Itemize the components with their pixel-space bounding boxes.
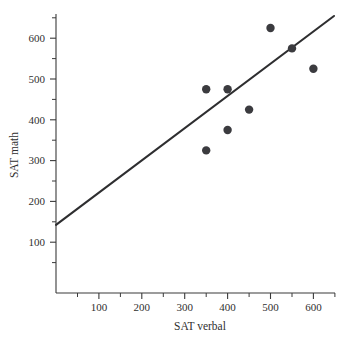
y-tick-label-200: 200 [29,195,46,207]
x-tick-label-500: 500 [262,301,279,313]
y-tick-label-100: 100 [29,236,46,248]
scatter-plot-figure: 600 500 400 300 200 100 1 [0,0,342,343]
data-point [202,146,210,154]
data-points-group [202,24,318,155]
y-tick-label-400: 400 [29,114,46,126]
data-point [309,65,317,73]
y-axis-minor-ticks [52,18,56,263]
y-axis-tick-labels: 600 500 400 300 200 100 [29,32,46,248]
data-point [202,85,210,93]
y-axis-title: SAT math [8,132,20,178]
y-tick-label-500: 500 [29,73,46,85]
x-tick-label-300: 300 [176,301,193,313]
chart-canvas: 600 500 400 300 200 100 1 [0,0,342,343]
data-point [245,105,253,113]
x-tick-label-600: 600 [305,301,322,313]
data-point [288,44,296,52]
x-tick-label-100: 100 [91,301,108,313]
data-point [266,24,274,32]
axes-group [56,14,335,293]
y-tick-label-600: 600 [29,32,46,44]
x-axis-minor-ticks [78,293,335,297]
x-axis-tick-labels: 100 200 300 400 500 600 [91,301,323,313]
data-point [223,85,231,93]
y-tick-label-300: 300 [29,154,46,166]
x-axis-title: SAT verbal [174,320,226,332]
x-tick-label-400: 400 [219,301,236,313]
x-tick-label-200: 200 [134,301,151,313]
data-point [223,126,231,134]
